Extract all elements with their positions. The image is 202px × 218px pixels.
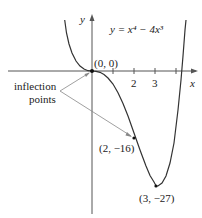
x-axis-label: x [190, 78, 195, 89]
graph-canvas [0, 0, 202, 218]
point-minimum [154, 184, 157, 187]
inflection-point-label: (2, −16) [99, 143, 135, 154]
y-axis-label: y [80, 14, 85, 25]
minimum-point-label: (3, −27) [139, 193, 175, 204]
tick-label-3: 3 [152, 78, 158, 89]
x-axis-arrow-icon [191, 69, 198, 74]
equation-label: y = x⁴ − 4x³ [110, 24, 163, 35]
point-inflection-2 [132, 136, 135, 139]
arrow-head-icon [85, 73, 91, 78]
annotation-line1: inflection [14, 81, 56, 92]
tick-label-2: 2 [131, 78, 137, 89]
origin-label: (0, 0) [94, 58, 118, 69]
function-curve [65, 20, 186, 186]
annotation-line2: points [29, 94, 56, 105]
point-origin [90, 69, 94, 73]
inflection-pointer-lines [60, 73, 131, 136]
y-axis-arrow-icon [90, 14, 95, 21]
